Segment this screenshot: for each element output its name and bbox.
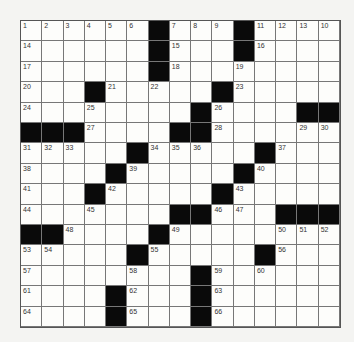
grid-cell[interactable] [106,103,127,123]
grid-cell[interactable] [42,103,63,123]
grid-cell[interactable] [106,143,127,163]
grid-cell[interactable] [297,245,318,265]
grid-cell[interactable] [234,225,255,245]
grid-cell[interactable] [149,103,170,123]
grid-cell[interactable]: 3 [64,21,85,41]
grid-cell[interactable] [234,103,255,123]
grid-cell[interactable] [106,205,127,225]
grid-cell[interactable] [255,205,276,225]
grid-cell[interactable] [149,307,170,327]
grid-cell[interactable]: 25 [85,103,106,123]
grid-cell[interactable]: 4 [85,21,106,41]
grid-cell[interactable]: 51 [297,225,318,245]
grid-cell[interactable] [64,82,85,102]
grid-cell[interactable] [297,143,318,163]
grid-cell[interactable]: 7 [170,21,191,41]
grid-cell[interactable] [42,184,63,204]
grid-cell[interactable] [276,41,297,61]
grid-cell[interactable] [234,143,255,163]
grid-cell[interactable]: 53 [21,245,42,265]
grid-cell[interactable] [106,62,127,82]
grid-cell[interactable]: 12 [276,21,297,41]
grid-cell[interactable]: 40 [255,164,276,184]
grid-cell[interactable] [42,82,63,102]
grid-cell[interactable]: 11 [255,21,276,41]
grid-cell[interactable]: 24 [21,103,42,123]
grid-cell[interactable]: 2 [42,21,63,41]
grid-cell[interactable] [42,62,63,82]
grid-cell[interactable]: 26 [212,103,233,123]
grid-cell[interactable] [149,123,170,143]
grid-cell[interactable]: 33 [64,143,85,163]
grid-cell[interactable]: 61 [21,286,42,306]
grid-cell[interactable]: 9 [212,21,233,41]
grid-cell[interactable] [319,82,340,102]
grid-cell[interactable] [191,62,212,82]
grid-cell[interactable] [127,225,148,245]
grid-cell[interactable] [85,62,106,82]
grid-cell[interactable] [255,123,276,143]
grid-cell[interactable]: 62 [127,286,148,306]
grid-cell[interactable]: 8 [191,21,212,41]
grid-cell[interactable] [127,205,148,225]
grid-cell[interactable]: 41 [21,184,42,204]
grid-cell[interactable] [85,143,106,163]
grid-cell[interactable]: 38 [21,164,42,184]
grid-cell[interactable]: 66 [212,307,233,327]
grid-cell[interactable] [297,164,318,184]
grid-cell[interactable]: 47 [234,205,255,225]
grid-cell[interactable] [276,286,297,306]
grid-cell[interactable] [127,62,148,82]
grid-cell[interactable]: 23 [234,82,255,102]
grid-cell[interactable] [276,164,297,184]
grid-cell[interactable] [64,103,85,123]
grid-cell[interactable] [212,245,233,265]
grid-cell[interactable] [234,123,255,143]
grid-cell[interactable]: 63 [212,286,233,306]
grid-cell[interactable] [319,286,340,306]
grid-cell[interactable] [85,245,106,265]
grid-cell[interactable] [234,266,255,286]
grid-cell[interactable] [106,266,127,286]
grid-cell[interactable]: 1 [21,21,42,41]
grid-cell[interactable] [297,184,318,204]
grid-cell[interactable] [42,307,63,327]
grid-cell[interactable]: 42 [106,184,127,204]
grid-cell[interactable] [276,62,297,82]
grid-cell[interactable] [255,307,276,327]
grid-cell[interactable] [170,266,191,286]
grid-cell[interactable] [64,184,85,204]
grid-cell[interactable] [64,266,85,286]
grid-cell[interactable]: 55 [149,245,170,265]
grid-cell[interactable] [170,245,191,265]
grid-cell[interactable] [319,266,340,286]
grid-cell[interactable] [319,184,340,204]
grid-cell[interactable] [42,41,63,61]
grid-cell[interactable]: 34 [149,143,170,163]
grid-cell[interactable]: 10 [319,21,340,41]
grid-cell[interactable] [191,41,212,61]
grid-cell[interactable] [85,225,106,245]
grid-cell[interactable] [149,184,170,204]
grid-cell[interactable] [319,307,340,327]
grid-cell[interactable]: 48 [64,225,85,245]
grid-cell[interactable]: 59 [212,266,233,286]
grid-cell[interactable] [64,307,85,327]
grid-cell[interactable]: 46 [212,205,233,225]
grid-cell[interactable]: 65 [127,307,148,327]
grid-cell[interactable]: 29 [297,123,318,143]
grid-cell[interactable] [64,164,85,184]
grid-cell[interactable] [212,225,233,245]
grid-cell[interactable]: 54 [42,245,63,265]
grid-cell[interactable] [191,225,212,245]
grid-cell[interactable]: 37 [276,143,297,163]
grid-cell[interactable] [297,266,318,286]
grid-cell[interactable] [212,143,233,163]
grid-cell[interactable]: 35 [170,143,191,163]
grid-cell[interactable]: 5 [106,21,127,41]
grid-cell[interactable] [191,184,212,204]
grid-cell[interactable] [42,205,63,225]
grid-cell[interactable] [191,82,212,102]
grid-cell[interactable] [191,245,212,265]
grid-cell[interactable]: 50 [276,225,297,245]
